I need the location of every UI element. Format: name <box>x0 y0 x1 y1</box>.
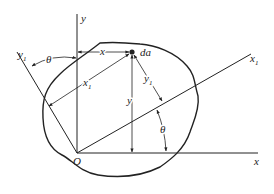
x1-axis <box>77 54 251 153</box>
origin-label: O <box>73 155 81 167</box>
dim-y1-label: y1 <box>143 72 152 87</box>
dim-x1-label: x1 <box>82 76 91 91</box>
x-axis-label: x <box>253 155 259 167</box>
area-boundary <box>43 43 198 177</box>
theta-right-label: θ <box>160 123 166 135</box>
area-rotation-diagram: y x x1 y1 O da x y x1 y1 θ θ <box>0 0 274 194</box>
theta-arc-top <box>32 57 76 66</box>
dim-x1-arrow <box>49 54 129 106</box>
element-da-point <box>129 49 134 54</box>
element-da-label: da <box>140 46 152 58</box>
x1-axis-label: x1 <box>249 52 258 67</box>
diagram-canvas: y x x1 y1 O da x y x1 y1 θ θ <box>0 0 274 194</box>
y-axis-label: y <box>80 12 86 24</box>
dim-x-label: x <box>99 45 105 57</box>
dim-y-label: y <box>126 94 132 106</box>
theta-top-label: θ <box>46 53 52 65</box>
